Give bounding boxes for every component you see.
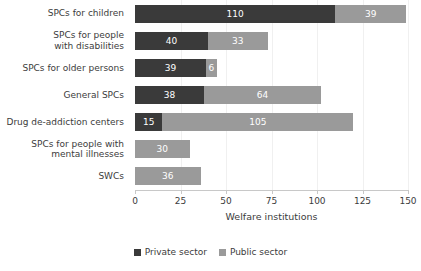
bar-value-label: 105 xyxy=(249,117,266,127)
stacked-bar-chart: SPCs for childrenSPCs for people with di… xyxy=(0,0,421,271)
x-tick-label: 150 xyxy=(388,196,421,206)
bar-value-label: 36 xyxy=(162,171,173,181)
bar-segment-public: 30 xyxy=(135,140,190,158)
x-tick xyxy=(135,190,136,194)
bar-segment-public: 33 xyxy=(208,32,268,50)
legend-swatch-icon xyxy=(219,249,226,256)
legend-swatch-icon xyxy=(134,249,141,256)
bar-segment-public: 64 xyxy=(204,86,320,104)
category-label: SWCs xyxy=(0,171,124,182)
bar-value-label: 64 xyxy=(257,90,268,100)
bar-value-label: 39 xyxy=(165,63,176,73)
x-tick-label: 50 xyxy=(206,196,246,206)
bar-value-label: 110 xyxy=(227,9,244,19)
bar-value-label: 33 xyxy=(232,36,243,46)
category-label: SPCs for children xyxy=(0,8,124,19)
bar-value-label: 39 xyxy=(365,9,376,19)
x-tick-label: 0 xyxy=(115,196,155,206)
bar-segment-private: 38 xyxy=(135,86,204,104)
x-tick xyxy=(363,190,364,194)
x-tick xyxy=(317,190,318,194)
category-label: SPCs for people with mental illnesses xyxy=(0,139,124,160)
bar-segment-public: 105 xyxy=(162,113,353,131)
x-tick-label: 100 xyxy=(297,196,337,206)
bar-segment-public: 36 xyxy=(135,167,201,185)
category-axis-labels: SPCs for childrenSPCs for people with di… xyxy=(0,0,130,190)
legend-item[interactable]: Private sector xyxy=(134,247,207,257)
bar-segment-private: 40 xyxy=(135,32,208,50)
x-tick xyxy=(226,190,227,194)
x-tick xyxy=(408,190,409,194)
x-tick-label: 25 xyxy=(161,196,201,206)
x-tick-label: 75 xyxy=(252,196,292,206)
category-label: SPCs for older persons xyxy=(0,63,124,74)
x-tick-label: 125 xyxy=(343,196,383,206)
bar-segment-private: 15 xyxy=(135,113,162,131)
bar-value-label: 38 xyxy=(164,90,175,100)
legend-item[interactable]: Public sector xyxy=(219,247,287,257)
category-label: SPCs for people with disabilities xyxy=(0,30,124,51)
x-tick xyxy=(272,190,273,194)
bar-row: 30 xyxy=(135,140,408,158)
bar-segment-private: 39 xyxy=(135,59,206,77)
bar-row: 4033 xyxy=(135,32,408,50)
bar-value-label: 40 xyxy=(166,36,177,46)
bar-row: 11039 xyxy=(135,5,408,23)
bar-row: 36 xyxy=(135,167,408,185)
category-label: Drug de-addiction centers xyxy=(0,117,124,128)
bar-row: 3864 xyxy=(135,86,408,104)
bar-segment-private: 110 xyxy=(135,5,335,23)
grid-line xyxy=(408,0,409,190)
bar-segment-public: 6 xyxy=(206,59,217,77)
bar-row: 15105 xyxy=(135,113,408,131)
bar-segment-public: 39 xyxy=(335,5,406,23)
bar-value-label: 15 xyxy=(143,117,154,127)
bar-row: 396 xyxy=(135,59,408,77)
bar-value-label: 30 xyxy=(157,144,168,154)
chart-legend: Private sectorPublic sector xyxy=(0,247,421,257)
x-tick xyxy=(181,190,182,194)
legend-label: Private sector xyxy=(145,247,207,257)
category-label: General SPCs xyxy=(0,90,124,101)
legend-label: Public sector xyxy=(230,247,287,257)
bar-value-label: 6 xyxy=(209,63,215,73)
plot-area: 1103940333963864151053036 xyxy=(135,0,408,190)
x-axis-title: Welfare institutions xyxy=(135,211,408,222)
